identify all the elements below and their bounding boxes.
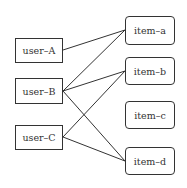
node-item-d: item–d [125,147,175,175]
node-user-b: user–B [15,78,63,104]
node-user-a: user–A [15,38,63,63]
edge-user-b-item-d [63,91,125,161]
bipartite-diagram: user–A user–B user–C item–a item–b item–… [0,0,187,188]
node-user-c: user–C [15,125,63,150]
node-item-c: item–c [125,101,175,129]
edge-user-a-item-a [63,30,125,50]
edge-user-c-item-d [63,137,125,161]
node-item-b: item–b [125,57,175,85]
edge-user-b-item-a [63,30,125,91]
node-item-a: item–a [125,16,175,45]
